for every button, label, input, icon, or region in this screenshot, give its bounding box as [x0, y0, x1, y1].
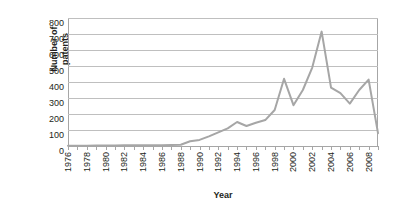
y-axis-tick-label: 800: [36, 18, 64, 28]
y-axis-tick-labels: 8007006005004003002001000: [36, 12, 64, 152]
x-axis-tick-label: 1982: [119, 152, 129, 186]
y-axis-tick-label: 500: [36, 66, 64, 76]
series-line-number-of-patents: [68, 18, 378, 146]
y-axis-tick-label: 100: [36, 130, 64, 140]
x-axis-tick-label: 2006: [345, 152, 355, 186]
patents-line-chart: Number of patents 8007006005004003002001…: [0, 0, 394, 212]
x-axis-tick-label: 1984: [138, 152, 148, 186]
x-axis-tick-label: 1988: [176, 152, 186, 186]
x-axis-tick-label: 2000: [288, 152, 298, 186]
x-axis-tick-label: 2004: [326, 152, 336, 186]
x-axis-title: Year: [68, 190, 378, 200]
plot-area: [68, 18, 378, 146]
y-axis-tick-label: 0: [36, 146, 64, 156]
x-axis-tick-label: 1992: [213, 152, 223, 186]
x-axis-tick-label: 1986: [157, 152, 167, 186]
x-axis-tick-labels: 1976197819801982198419861988199019921994…: [68, 150, 378, 184]
x-axis-tick-label: 1976: [63, 152, 73, 186]
y-axis-tick-label: 600: [36, 50, 64, 60]
x-axis-tick-label: 2002: [307, 152, 317, 186]
y-axis-tick-label: 700: [36, 34, 64, 44]
x-axis-tick-label: 1996: [251, 152, 261, 186]
x-axis-tick-label: 1998: [270, 152, 280, 186]
y-axis-tick-label: 200: [36, 114, 64, 124]
series-polyline: [68, 32, 378, 146]
x-axis-tick-label: 1980: [101, 152, 111, 186]
y-axis-tick-label: 400: [36, 82, 64, 92]
x-axis-tick-label: 1978: [82, 152, 92, 186]
y-axis-tick-label: 300: [36, 98, 64, 108]
x-axis-tick-label: 1994: [232, 152, 242, 186]
x-axis-tick-mark: [378, 146, 379, 150]
x-axis-tick-label: 1990: [195, 152, 205, 186]
x-axis-tick-label: 2008: [364, 152, 374, 186]
